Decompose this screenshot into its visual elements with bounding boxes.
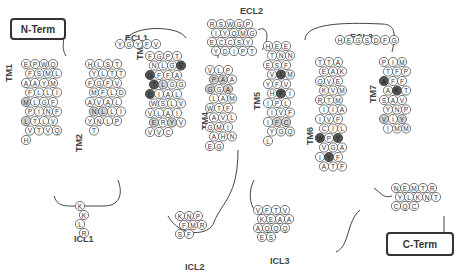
svg-text:V: V: [28, 127, 33, 134]
residue-tm6: A: [337, 105, 346, 114]
residue-ecl2: P: [243, 19, 252, 28]
svg-text:G: G: [126, 41, 131, 48]
residue-tm1: F: [25, 88, 34, 97]
svg-text:Y: Y: [42, 80, 47, 87]
svg-text:A: A: [336, 59, 341, 66]
residue-tm3: F: [163, 70, 172, 79]
residue-ecl3: G: [389, 35, 398, 44]
residue-tm4: A: [209, 113, 218, 122]
svg-text:F: F: [275, 119, 279, 126]
svg-text:V: V: [115, 80, 120, 87]
residue-ecl1: V: [151, 39, 160, 48]
svg-text:V: V: [157, 129, 162, 136]
residue-tm1: T: [34, 126, 43, 135]
svg-text:P: P: [196, 213, 200, 220]
residue-tm6: E: [333, 76, 342, 85]
svg-text:K: K: [322, 87, 327, 94]
residue-tm6: F: [333, 114, 342, 123]
svg-text:F: F: [157, 72, 161, 79]
svg-text:F: F: [279, 90, 283, 97]
svg-text:V: V: [283, 207, 288, 214]
svg-text:Q: Q: [287, 128, 292, 136]
svg-text:T: T: [327, 59, 331, 66]
svg-text:E: E: [336, 78, 341, 85]
residue-tm1: T: [30, 116, 39, 125]
svg-text:M: M: [45, 70, 50, 77]
residue-tm7: P: [401, 67, 410, 76]
svg-text:F: F: [383, 37, 387, 44]
residue-tm1: A: [21, 78, 30, 87]
svg-text:V: V: [322, 144, 327, 151]
residue-tm2: L: [112, 97, 121, 106]
svg-text:R: R: [210, 21, 215, 28]
svg-text:I: I: [158, 91, 160, 98]
residue-tm5: C: [281, 117, 290, 126]
svg-text:F: F: [265, 207, 269, 214]
svg-text:I: I: [227, 124, 229, 131]
residue-tm6: T: [315, 57, 324, 66]
residue-ecl2: G: [247, 28, 256, 37]
residue-c_tail: L: [404, 192, 413, 201]
svg-text:P: P: [404, 106, 408, 113]
svg-text:V: V: [154, 41, 159, 48]
residue-icl2: F: [179, 220, 188, 229]
residue-ecl2: M: [238, 28, 247, 37]
svg-text:V: V: [284, 81, 289, 88]
svg-text:F: F: [148, 53, 152, 60]
svg-text:K: K: [82, 212, 87, 219]
svg-text:I: I: [332, 106, 334, 113]
svg-text:Y: Y: [214, 48, 219, 55]
residue-tm2: N: [89, 107, 98, 116]
svg-text:G: G: [249, 30, 254, 37]
residue-tm5: T: [267, 51, 276, 60]
svg-text:V: V: [97, 99, 102, 106]
svg-text:T: T: [434, 194, 438, 201]
svg-text:E: E: [275, 43, 280, 50]
residue-tm3: I: [172, 108, 181, 117]
svg-text:E: E: [179, 62, 184, 69]
residue-tm1: P: [30, 59, 39, 68]
residue-tm4: A: [223, 84, 232, 93]
residue-tm4: L: [214, 65, 223, 74]
residue-tm5: Q: [285, 127, 294, 136]
residue-icl2: F: [184, 229, 193, 238]
residue-tm1: S: [34, 69, 43, 78]
residue-ecl3: G: [353, 35, 362, 44]
residue-ecl3: E: [344, 35, 353, 44]
residue-tm3: P: [163, 51, 172, 60]
svg-text:F: F: [400, 78, 404, 85]
residue-tm6: A: [319, 162, 328, 171]
svg-text:P: P: [382, 59, 386, 66]
residue-ecl2: W: [225, 19, 234, 28]
residue-icl3: S: [266, 232, 275, 241]
residue-tm7: V: [397, 95, 406, 104]
svg-text:A: A: [221, 95, 226, 102]
svg-text:G: G: [41, 99, 46, 106]
svg-text:G: G: [207, 124, 212, 131]
residue-tm6: Y: [324, 152, 333, 161]
svg-text:Q: Q: [50, 61, 55, 69]
residue-tm1: Q: [52, 126, 61, 135]
residue-tm7: P: [401, 105, 410, 114]
svg-text:G: G: [278, 128, 283, 135]
svg-text:H: H: [221, 133, 226, 140]
residue-ecl2: D: [220, 46, 229, 55]
residue-ecl2: G: [234, 19, 243, 28]
residue-tm2: L: [107, 88, 116, 97]
residue-c_tail: R: [427, 183, 436, 192]
tm1-label: TM1: [4, 64, 14, 82]
svg-text:V: V: [208, 67, 213, 74]
residue-tm6: M: [333, 95, 342, 104]
residue-tm5: E: [272, 41, 281, 50]
svg-text:L: L: [42, 118, 46, 125]
residue-icl3: E: [266, 214, 275, 223]
residue-c_tail: K: [413, 192, 422, 201]
svg-text:W: W: [207, 105, 214, 112]
residue-tm1: L: [34, 88, 43, 97]
svg-text:S: S: [269, 234, 274, 241]
svg-text:L: L: [266, 138, 270, 145]
svg-text:I: I: [280, 71, 282, 78]
svg-text:G: G: [147, 72, 152, 79]
svg-text:R: R: [82, 230, 87, 237]
residue-tm1: A: [30, 78, 39, 87]
